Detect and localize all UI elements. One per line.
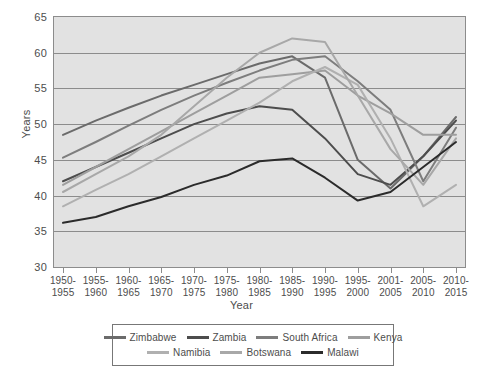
legend-row: NamibiaBotswanaMalawi xyxy=(119,345,387,360)
legend-swatch-icon xyxy=(187,336,209,339)
plot-area xyxy=(53,16,466,268)
legend-label: Malawi xyxy=(327,347,359,358)
legend-item-kenya[interactable]: Kenya xyxy=(348,332,403,343)
x-axis-tick-mark xyxy=(227,268,228,273)
x-axis-tick-mark xyxy=(456,268,457,273)
series-line-namibia xyxy=(63,67,456,206)
x-axis-tick-mark xyxy=(129,268,130,273)
x-axis-tick-mark xyxy=(423,268,424,273)
y-axis-tick-label: 55 xyxy=(3,83,47,94)
y-axis-tick-label: 60 xyxy=(3,48,47,59)
legend-label: Zambia xyxy=(213,332,247,343)
x-axis-tick-label: 2010-2015 xyxy=(433,275,479,299)
x-axis-tick-mark xyxy=(161,268,162,273)
x-axis-tick-mark xyxy=(260,268,261,273)
legend-swatch-icon xyxy=(220,351,242,354)
series-lines-svg xyxy=(54,17,465,267)
x-axis-tick-mark xyxy=(391,268,392,273)
legend-label: South Africa xyxy=(282,332,337,343)
legend-swatch-icon xyxy=(147,351,169,354)
legend-swatch-icon xyxy=(104,336,126,339)
legend-swatch-icon xyxy=(348,336,370,339)
series-line-kenya xyxy=(63,71,456,185)
legend-row: ZimbabweZambiaSouth AfricaKenya xyxy=(119,330,387,345)
chart-legend: ZimbabweZambiaSouth AfricaKenyaNamibiaBo… xyxy=(112,324,394,366)
x-axis-tick-mark xyxy=(194,268,195,273)
x-axis-tick-mark xyxy=(63,268,64,273)
legend-label: Botswana xyxy=(246,347,291,358)
y-axis-tick-label: 35 xyxy=(3,226,47,237)
x-axis-title: Year xyxy=(0,299,483,311)
x-axis-tick-mark xyxy=(358,268,359,273)
y-axis-tick-label: 65 xyxy=(3,12,47,23)
legend-item-zambia[interactable]: Zambia xyxy=(187,332,247,343)
x-axis-tick-mark xyxy=(325,268,326,273)
y-axis-title: Years xyxy=(20,94,32,154)
legend-swatch-icon xyxy=(301,351,323,354)
line-chart: 6560555045403530 Years 1950-19551955-196… xyxy=(0,0,483,381)
legend-label: Namibia xyxy=(173,347,210,358)
legend-item-namibia[interactable]: Namibia xyxy=(147,347,210,358)
legend-label: Zimbabwe xyxy=(130,332,177,343)
x-axis-tick-mark xyxy=(96,268,97,273)
y-axis-tick-label: 45 xyxy=(3,155,47,166)
legend-item-zimbabwe[interactable]: Zimbabwe xyxy=(104,332,177,343)
legend-item-south-africa[interactable]: South Africa xyxy=(256,332,337,343)
x-axis-tick-mark xyxy=(292,268,293,273)
series-line-botswana xyxy=(63,38,456,192)
legend-item-malawi[interactable]: Malawi xyxy=(301,347,359,358)
y-axis-tick-label: 40 xyxy=(3,191,47,202)
y-axis-tick-label: 30 xyxy=(3,262,47,273)
legend-item-botswana[interactable]: Botswana xyxy=(220,347,291,358)
legend-swatch-icon xyxy=(256,336,278,339)
legend-label: Kenya xyxy=(374,332,403,343)
